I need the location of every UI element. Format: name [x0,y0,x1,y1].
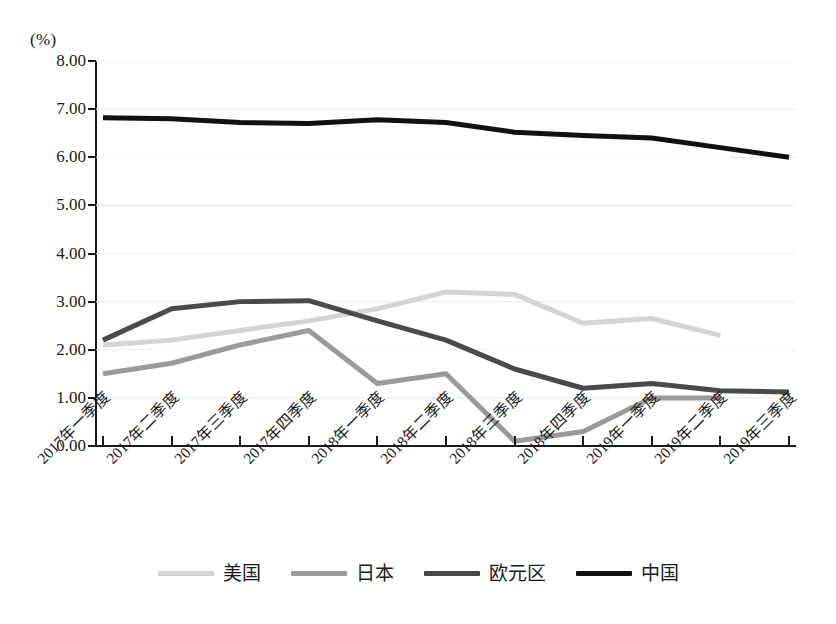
legend-item-1[interactable]: 日本 [291,564,394,583]
legend-swatch-icon [291,571,347,576]
legend-swatch-icon [576,571,632,576]
legend-label: 日本 [356,564,394,583]
y-axis-tick-label: 7.00 [28,100,86,117]
legend-swatch-icon [424,571,480,576]
legend-label: 欧元区 [489,564,546,583]
y-axis-tick-mark [88,349,96,351]
x-axis-tick-mark [445,436,447,446]
legend-label: 美国 [223,564,261,583]
x-axis-tick-mark [102,436,104,446]
y-axis-tick-mark [88,253,96,255]
x-axis-tick-mark [514,436,516,446]
legend-item-0[interactable]: 美国 [158,564,261,583]
legend-label: 中国 [641,564,679,583]
y-axis-tick-labels: 8.007.006.005.004.003.002.001.000.00 [20,0,86,624]
y-axis-tick-mark [88,301,96,303]
y-axis-tick-mark [88,156,96,158]
x-axis-tick-mark [788,436,790,446]
y-axis-tick-label: 1.00 [28,389,86,406]
plot-area [96,61,796,446]
x-axis-tick-mark [651,436,653,446]
legend-item-3[interactable]: 中国 [576,564,679,583]
x-axis-tick-mark [376,436,378,446]
y-axis-tick-label: 3.00 [28,293,86,310]
x-axis-tick-mark [582,436,584,446]
x-axis-tick-mark [171,436,173,446]
series-line-3[interactable] [103,118,789,157]
y-axis-tick-mark [88,204,96,206]
series-lines [96,61,796,446]
line-chart: (%) 8.007.006.005.004.003.002.001.000.00… [0,0,836,624]
y-axis-tick-label: 4.00 [28,245,86,262]
y-axis-tick-mark [88,60,96,62]
chart-legend: 美国日本欧元区中国 [0,564,836,583]
series-line-2[interactable] [103,301,789,392]
y-axis-tick-mark [88,108,96,110]
y-axis-tick-label: 5.00 [28,196,86,213]
x-axis-tick-mark [308,436,310,446]
x-axis-tick-mark [719,436,721,446]
y-axis-tick-label: 2.00 [28,341,86,358]
y-axis-tick-mark [88,445,96,447]
x-axis-tick-mark [239,436,241,446]
y-axis-tick-mark [88,397,96,399]
legend-swatch-icon [158,571,214,576]
y-axis-tick-label: 8.00 [28,52,86,69]
legend-item-2[interactable]: 欧元区 [424,564,546,583]
series-line-0[interactable] [103,292,720,345]
y-axis-tick-label: 6.00 [28,148,86,165]
